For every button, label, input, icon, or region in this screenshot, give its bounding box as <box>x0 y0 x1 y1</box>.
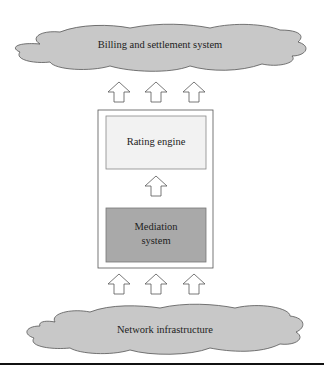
diagram-canvas <box>0 0 324 375</box>
up-arrow-icon <box>145 82 167 102</box>
bottom-rule <box>0 363 324 365</box>
up-arrow-icon <box>183 82 205 102</box>
network-infrastructure-label: Network infrastructure <box>80 324 250 335</box>
up-arrow-icon <box>108 82 130 102</box>
mediation-label-line2: system <box>106 235 206 246</box>
up-arrow-icon <box>183 274 205 294</box>
rating-engine-label: Rating engine <box>106 136 206 147</box>
mediation-label-line1: Mediation <box>106 221 206 232</box>
up-arrow-icon <box>145 274 167 294</box>
up-arrow-icon <box>108 274 130 294</box>
billing-settlement-label: Billing and settlement system <box>60 39 260 50</box>
